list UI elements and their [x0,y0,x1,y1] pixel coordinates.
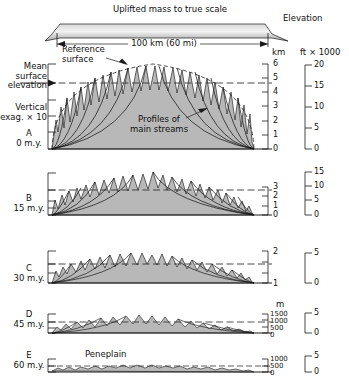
panel-b-km-tick-2: 2 [273,191,278,200]
panel-d-ft-ticks [305,313,312,333]
panel-a-ft-ticks [305,65,312,149]
panel-c-ft-ticks [305,253,312,283]
panel-a-km-tick-4: 4 [273,87,278,96]
panel-c-km-tick-2: 2 [273,247,278,256]
panel-e-m-tick-0: 0 [270,369,274,377]
panel-d-ft-tick-0: 0 [314,328,319,337]
panel-c-km-tick-1: 1 [273,279,278,288]
panel-a-ft-tick-20: 20 [314,60,324,69]
panel-a-ft-tick-5: 5 [314,123,319,132]
panel-b-ft-ticks [305,172,312,215]
panel-b-chart [0,167,349,233]
panel-a-km-tick-2: 2 [273,116,278,125]
panel-d-ft-tick-5: 5 [314,308,319,317]
panel-b-ft-tick-15: 15 [314,167,324,176]
panel-c-ft-tick-0: 0 [314,278,319,287]
panel-a-km-tick-6: 6 [273,59,278,68]
panel-c-chart [0,243,349,293]
panel-b-km-tick-3: 3 [273,182,278,191]
panel-b-ft-tick-5: 5 [314,195,319,204]
panel-b-km-ticks [262,187,268,215]
panel-a-km-tick-3: 3 [273,101,278,110]
panel-a-km-tick-5: 5 [273,73,278,82]
panel-b-km-tick-1: 1 [273,201,278,210]
panel-a-ft-tick-0: 0 [314,144,319,153]
panel-c-ft-tick-5: 5 [314,248,319,257]
panel-a-km-tick-0: 0 [273,144,278,153]
panel-b-ft-tick-10: 10 [314,181,324,190]
panel-d-chart [0,300,349,342]
panel-a-terrain [52,66,254,149]
panel-e-ft-ticks [305,356,312,372]
panel-a-km-ticks [262,64,268,149]
stream-profiles-label: Profiles of main streams [128,115,190,134]
panel-d-m-tick-0: 0 [270,331,274,339]
panel-e-ft-tick-5: 5 [314,351,319,360]
panel-e-m-ticks [262,359,268,372]
scale-arrow-right [260,41,268,47]
panel-b-km-tick-0: 0 [273,210,278,219]
panel-a-chart [0,50,349,165]
panel-c-km-ticks [262,251,268,283]
panel-b-ft-tick-0: 0 [314,210,319,219]
scale-bar-label: 100 km (60 mi) [128,39,200,49]
panel-e-chart [0,347,349,381]
panel-a-ft-tick-15: 15 [314,81,324,90]
panel-d-m-ticks [262,314,268,333]
panel-a-km-tick-1: 1 [273,130,278,139]
panel-a-ft-tick-10: 10 [314,102,324,111]
panel-e-ft-tick-0: 0 [314,367,319,376]
panel-a-reference-leader-arrow [119,59,128,66]
